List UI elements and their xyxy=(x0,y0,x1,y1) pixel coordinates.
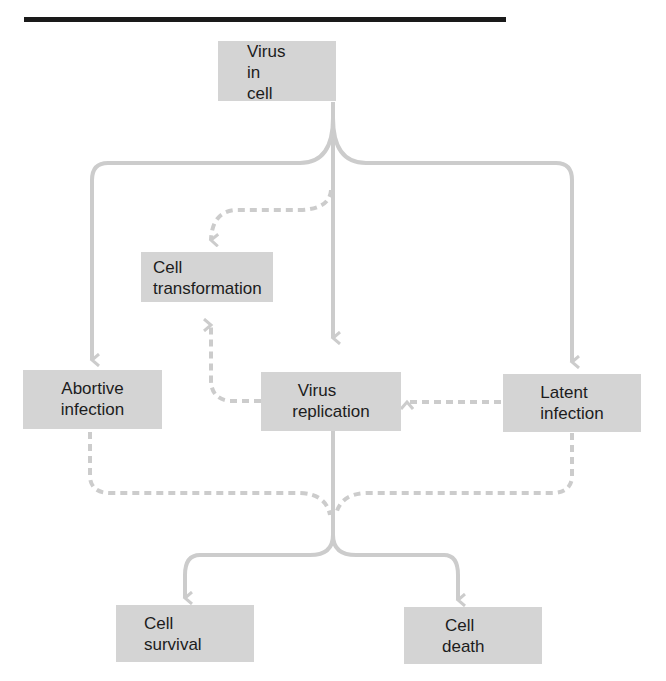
node-cell-survival: Cell survival xyxy=(116,605,254,662)
node-label: transformation xyxy=(153,278,273,299)
node-label: Virus xyxy=(261,380,401,401)
node-abortive-infection: Abortive infection xyxy=(23,370,162,429)
node-label: Cell xyxy=(144,613,254,634)
edge-to-latent xyxy=(333,118,572,362)
node-latent-infection: Latent infection xyxy=(503,374,641,432)
node-label: survival xyxy=(144,634,254,655)
node-label: Abortive xyxy=(23,378,162,399)
edge-abortive-to-outcome xyxy=(90,432,330,515)
node-label: infection xyxy=(23,399,162,420)
edge-latent-to-outcome xyxy=(336,433,572,515)
node-label: in xyxy=(247,62,336,83)
node-label: death xyxy=(442,636,542,657)
node-virus-replication: Virus replication xyxy=(261,372,401,431)
node-cell-transformation: Cell transformation xyxy=(141,252,273,302)
edge-to-survival xyxy=(185,405,333,598)
node-label: Cell xyxy=(442,615,542,636)
edge-replication-to-transformation xyxy=(211,325,261,401)
node-virus-in-cell: Virus in cell xyxy=(218,41,336,101)
edge-to-death xyxy=(333,535,458,600)
node-label: Virus xyxy=(247,41,336,62)
node-label: cell xyxy=(247,83,336,104)
node-label: Latent xyxy=(503,382,641,403)
node-label: Cell xyxy=(153,257,273,278)
node-label: replication xyxy=(261,401,401,422)
node-label: infection xyxy=(503,403,641,424)
edge-to-transformation-top xyxy=(211,190,331,240)
node-cell-death: Cell death xyxy=(404,607,542,664)
